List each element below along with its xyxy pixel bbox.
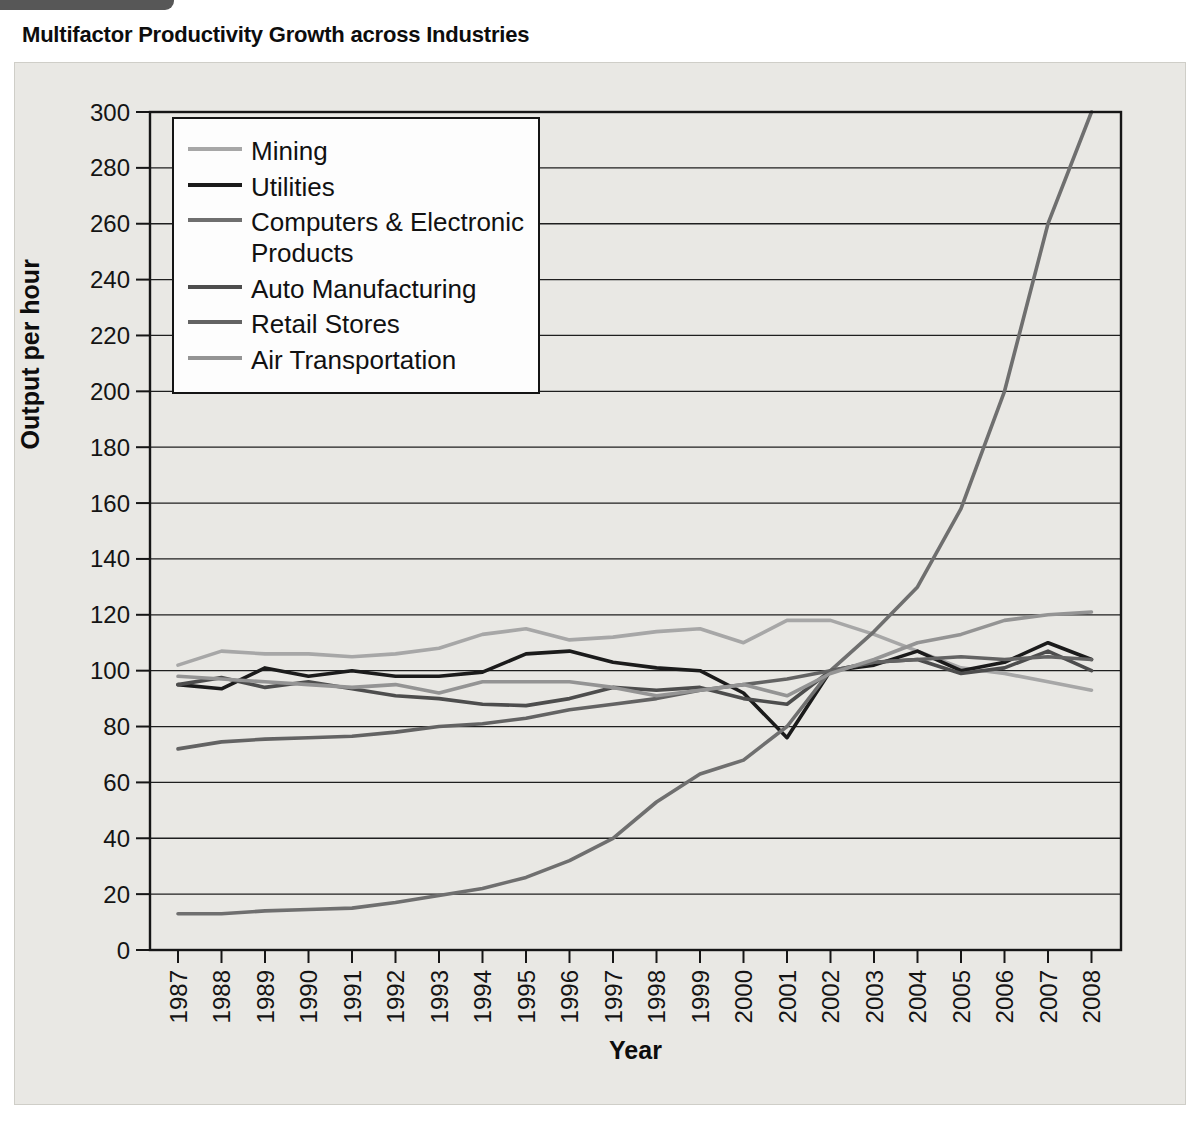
legend-label: Auto Manufacturing	[251, 274, 476, 305]
x-tick-label: 1990	[295, 970, 322, 1023]
legend-item-computers-and-electronic-products: Computers & Electronic Products	[188, 207, 526, 268]
y-tick-label: 60	[103, 769, 130, 796]
y-tick-label: 180	[90, 434, 130, 461]
legend-swatch	[188, 285, 242, 289]
y-tick-label: 80	[103, 713, 130, 740]
y-tick-label: 220	[90, 322, 130, 349]
series-line-mining	[178, 620, 1092, 690]
legend-swatch	[188, 320, 242, 324]
x-tick-label: 2005	[948, 970, 975, 1023]
y-tick-label: 40	[103, 825, 130, 852]
legend-swatch	[188, 218, 242, 222]
x-tick-label: 2001	[774, 970, 801, 1023]
x-tick-label: 1989	[252, 970, 279, 1023]
legend-item-retail-stores: Retail Stores	[188, 309, 526, 340]
legend-label: Computers & Electronic Products	[251, 207, 526, 268]
x-tick-label: 2003	[861, 970, 888, 1023]
y-tick-label: 260	[90, 210, 130, 237]
legend-label: Retail Stores	[251, 309, 400, 340]
legend-swatch	[188, 183, 242, 187]
legend-item-auto-manufacturing: Auto Manufacturing	[188, 274, 526, 305]
y-axis-title: Output per hour	[16, 259, 45, 449]
x-tick-label: 1998	[643, 970, 670, 1023]
x-tick-label: 1991	[339, 970, 366, 1023]
y-tick-label: 100	[90, 657, 130, 684]
x-tick-label: 1996	[556, 970, 583, 1023]
y-tick-label: 240	[90, 266, 130, 293]
y-tick-label: 280	[90, 154, 130, 181]
y-tick-label: 0	[117, 937, 130, 964]
legend-swatch	[188, 356, 242, 360]
x-tick-label: 1994	[469, 970, 496, 1023]
legend-item-mining: Mining	[188, 136, 526, 167]
y-tick-label: 20	[103, 881, 130, 908]
x-tick-label: 1988	[208, 970, 235, 1023]
x-tick-label: 1992	[382, 970, 409, 1023]
x-tick-label: 2007	[1035, 970, 1062, 1023]
x-tick-label: 1997	[600, 970, 627, 1023]
x-tick-label: 1993	[426, 970, 453, 1023]
series-line-auto-manufacturing	[178, 651, 1092, 706]
legend-label: Utilities	[251, 172, 335, 203]
x-tick-label: 2006	[991, 970, 1018, 1023]
legend-item-air-transportation: Air Transportation	[188, 345, 526, 376]
x-tick-label: 1999	[687, 970, 714, 1023]
y-tick-label: 200	[90, 378, 130, 405]
x-axis-title: Year	[150, 1036, 1121, 1065]
y-tick-label: 160	[90, 490, 130, 517]
y-tick-label: 300	[90, 99, 130, 126]
x-tick-label: 1987	[165, 970, 192, 1023]
y-tick-label: 120	[90, 601, 130, 628]
chart-legend: MiningUtilitiesComputers & Electronic Pr…	[172, 117, 540, 394]
x-tick-label: 2004	[904, 970, 931, 1023]
x-tick-label: 1995	[513, 970, 540, 1023]
legend-swatch	[188, 147, 242, 151]
y-tick-label: 140	[90, 545, 130, 572]
figure-page: Multifactor Productivity Growth across I…	[0, 0, 1192, 1129]
x-tick-label: 2008	[1078, 970, 1105, 1023]
legend-label: Mining	[251, 136, 328, 167]
x-tick-label: 2000	[730, 970, 757, 1023]
x-tick-label: 2002	[817, 970, 844, 1023]
legend-item-utilities: Utilities	[188, 172, 526, 203]
legend-label: Air Transportation	[251, 345, 456, 376]
